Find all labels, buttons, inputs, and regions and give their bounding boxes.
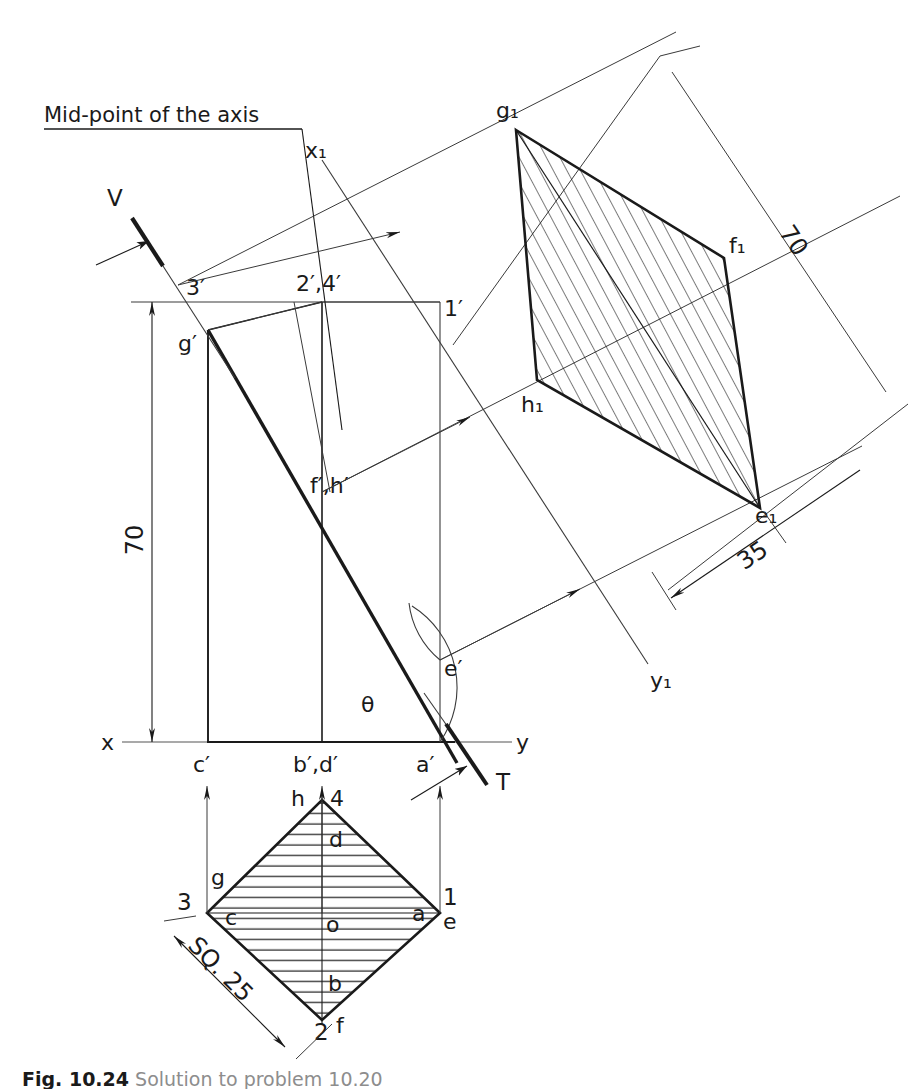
dim-35-aux-line bbox=[671, 470, 860, 598]
label-g1: g₁ bbox=[496, 98, 519, 123]
front-view: 3′ 2′,4′ 1′ g′ f′,h′ e′ c′ b′,d′ a′ θ x … bbox=[101, 271, 529, 777]
dim-70-front-value: 70 bbox=[121, 525, 149, 556]
label-1-plan: 1 bbox=[443, 884, 458, 910]
label-a-prime: a′ bbox=[416, 752, 434, 777]
dim-70-aux-extension-top bbox=[660, 46, 700, 56]
label-1-prime: 1′ bbox=[444, 296, 463, 321]
label-h1: h₁ bbox=[521, 392, 544, 417]
label-g-plan: g bbox=[211, 865, 225, 890]
label-a-plan: a bbox=[412, 901, 425, 926]
label-y1: y₁ bbox=[650, 668, 672, 693]
label-ground-x: x bbox=[101, 730, 114, 755]
prism-axis-line bbox=[208, 330, 457, 763]
dim-35-aux-value: 35 bbox=[732, 535, 773, 575]
auxiliary-view: g₁ f₁ h₁ e₁ bbox=[496, 98, 777, 528]
label-f1: f₁ bbox=[729, 233, 746, 258]
midpoint-annotation: Mid-point of the axis bbox=[44, 103, 342, 430]
v-trace-pointer bbox=[96, 241, 149, 265]
label-4-plan: 4 bbox=[330, 786, 344, 811]
construction-24-to-fh bbox=[294, 302, 330, 492]
label-2-4-prime: 2′,4′ bbox=[296, 271, 341, 296]
projector-from-fh-prime-arrow bbox=[322, 417, 470, 492]
label-f-h-prime: f′,h′ bbox=[310, 473, 349, 498]
label-T: T bbox=[495, 769, 511, 795]
figure-caption: Fig. 10.24 Solution to problem 10.20 bbox=[22, 1068, 383, 1089]
figure-caption-text: Solution to problem 10.20 bbox=[135, 1068, 383, 1089]
construction-g-to-top bbox=[208, 302, 322, 330]
label-e-prime: e′ bbox=[444, 656, 463, 681]
dim-35-aux-extension-b bbox=[652, 572, 676, 610]
label-V: V bbox=[107, 185, 123, 211]
projector-from-e-prime-arrow bbox=[440, 589, 580, 660]
dimension-70-front: 70 bbox=[121, 302, 152, 742]
label-b-d-prime: b′,d′ bbox=[293, 752, 338, 777]
projector-from-g-prime-arrow bbox=[178, 232, 400, 285]
label-c-prime: c′ bbox=[193, 752, 210, 777]
dim-sq25-extension-a bbox=[164, 916, 196, 921]
label-b-plan: b bbox=[328, 971, 342, 996]
label-3-plan: 3 bbox=[177, 889, 192, 915]
label-2-plan: 2 bbox=[314, 1019, 329, 1045]
label-h-plan: h bbox=[291, 786, 305, 811]
label-o-plan: o bbox=[326, 912, 339, 937]
figure-sheet: 3′ 2′,4′ 1′ g′ f′,h′ e′ c′ b′,d′ a′ θ x … bbox=[0, 0, 923, 1089]
midpoint-label: Mid-point of the axis bbox=[44, 103, 259, 127]
label-x1: x₁ bbox=[305, 138, 327, 163]
figure-number: Fig. 10.24 bbox=[22, 1068, 129, 1089]
theta-angle-arc bbox=[409, 603, 440, 660]
top-view: h 4 d 3 g c o a 1 e b 2 f bbox=[177, 786, 458, 1045]
label-theta: θ bbox=[361, 692, 374, 717]
label-e-plan: e bbox=[443, 909, 457, 934]
label-ground-y: y bbox=[516, 730, 529, 755]
label-f-plan: f bbox=[336, 1013, 345, 1038]
dim-70-aux-value: 70 bbox=[773, 220, 813, 261]
label-d-plan: d bbox=[329, 827, 343, 852]
engineering-drawing-canvas: 3′ 2′,4′ 1′ g′ f′,h′ e′ c′ b′,d′ a′ θ x … bbox=[0, 0, 923, 1089]
label-g-prime: g′ bbox=[178, 331, 197, 356]
label-c-plan: c bbox=[225, 905, 237, 930]
vertical-trace-V: V bbox=[96, 185, 235, 378]
